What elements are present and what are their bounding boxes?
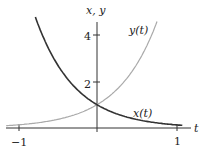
- curve-label-x: x(t): [133, 107, 152, 120]
- tick-label-2: 2: [84, 78, 91, 91]
- tick-label-4: 4: [84, 30, 91, 43]
- tick-label-1: 1: [174, 135, 181, 148]
- curve-label-y: y(t): [128, 24, 148, 37]
- t-axis-label: t: [194, 122, 199, 135]
- tick-label-neg1: −1: [11, 136, 27, 149]
- curve-x: [35, 17, 182, 125]
- chart: x, y t −1 1 2 4 y(t) x(t): [0, 0, 202, 150]
- y-axis-label: x, y: [86, 4, 106, 17]
